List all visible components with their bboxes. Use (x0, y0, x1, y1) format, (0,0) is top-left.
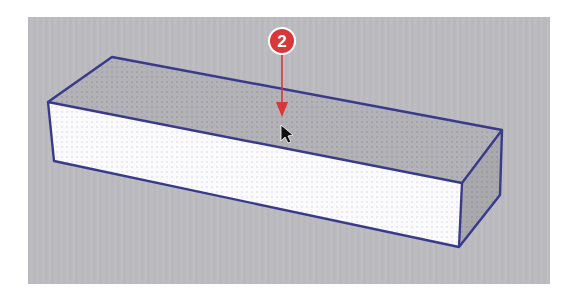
modeling-viewport[interactable]: 2 (28, 17, 550, 284)
callout-number: 2 (277, 32, 286, 51)
callout-marker: 2 (268, 27, 296, 55)
3d-scene[interactable]: 2 (28, 17, 550, 284)
